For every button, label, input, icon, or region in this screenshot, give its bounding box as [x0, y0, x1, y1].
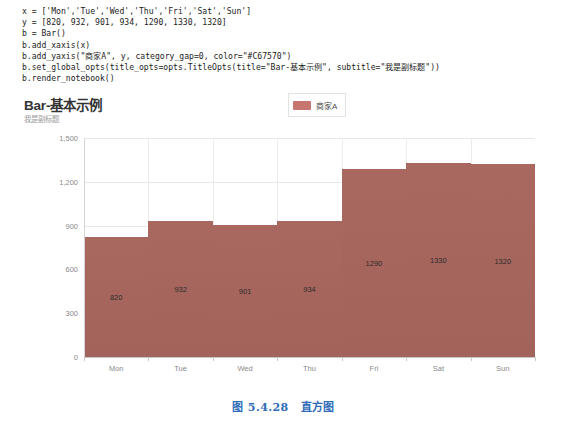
- bar-value-label: 1290: [342, 258, 406, 267]
- chart-title: Bar-基本示例: [24, 94, 101, 114]
- code-line-4-text: b.add_xaxis(x): [22, 40, 90, 50]
- bar-cell: 1320: [471, 138, 535, 357]
- code-line-6-text: b.set_global_opts(title_opts=opts.TitleO…: [22, 62, 440, 72]
- x-axis-tick-mark: [471, 357, 472, 361]
- bar[interactable]: 901: [213, 225, 277, 357]
- code-line-2: y = [820, 932, 901, 934, 1290, 1330, 132…: [22, 17, 567, 28]
- code-line-5: b.add_yaxis("商家A", y, category_gap=0, co…: [22, 51, 567, 62]
- bar-cell: 820: [84, 138, 148, 357]
- code-line-3: b = Bar(): [22, 28, 567, 39]
- y-axis-tick-label: 600: [10, 265, 78, 274]
- x-axis-tick-mark: [277, 357, 278, 361]
- code-line-3-text: b = Bar(): [22, 28, 66, 38]
- bar-cell: 934: [277, 138, 341, 357]
- bar-cell: 1330: [406, 138, 470, 357]
- x-axis-tick-mark: [535, 357, 536, 361]
- y-axis-tick-label: 1,200: [10, 177, 78, 186]
- y-axis-tick-label: 300: [10, 309, 78, 318]
- bar-value-label: 901: [213, 287, 277, 296]
- figure-caption-text: 直方图: [301, 401, 335, 414]
- chart-card: Bar-基本示例 我是副标题 商家A 03006009001,2001,500 …: [10, 88, 550, 388]
- x-axis-tick-label: Mon: [109, 364, 124, 373]
- figure-caption-number: 图 5.4.28: [232, 401, 288, 414]
- x-axis-tick-label: Sun: [496, 364, 509, 373]
- bar[interactable]: 1320: [471, 164, 535, 357]
- code-line-7-text: b.render_notebook(): [22, 73, 115, 83]
- y-axis-tick-label: 900: [10, 221, 78, 230]
- y-axis-line: [84, 138, 85, 357]
- code-line-6: b.set_global_opts(title_opts=opts.TitleO…: [22, 62, 567, 73]
- code-block: x = ['Mon','Tue','Wed','Thu','Fri','Sat'…: [0, 0, 567, 88]
- y-axis-tick-label: 0: [10, 353, 78, 362]
- x-axis-line: [84, 357, 536, 358]
- bar-value-label: 934: [277, 284, 341, 293]
- legend-item-label: 商家A: [316, 100, 337, 111]
- bar[interactable]: 1290: [342, 169, 406, 357]
- x-axis-tick-mark: [342, 357, 343, 361]
- x-axis-tick-mark: [84, 357, 85, 361]
- bar[interactable]: 1330: [406, 163, 470, 357]
- bar[interactable]: 934: [277, 221, 341, 357]
- chart-subtitle: 我是副标题: [24, 113, 59, 124]
- bar-value-label: 1330: [406, 255, 470, 264]
- bar-cell: 932: [148, 138, 212, 357]
- bar-cell: 901: [213, 138, 277, 357]
- x-axis-tick-label: Tue: [174, 364, 187, 373]
- x-axis-tick-mark: [213, 357, 214, 361]
- code-line-7: b.render_notebook(): [22, 73, 567, 84]
- x-axis-tick-label: Thu: [303, 364, 316, 373]
- bar[interactable]: 820: [84, 237, 148, 357]
- x-axis-tick-label: Sat: [433, 364, 444, 373]
- plot-area: 820932901934129013301320: [84, 138, 535, 357]
- x-axis-tick-label: Wed: [237, 364, 252, 373]
- chart-legend[interactable]: 商家A: [288, 93, 346, 117]
- y-axis-tick-label: 1,500: [10, 134, 78, 143]
- bar[interactable]: 932: [148, 221, 212, 357]
- legend-color-swatch: [293, 101, 311, 110]
- code-line-4: b.add_xaxis(x): [22, 40, 567, 51]
- bar-cell: 1290: [342, 138, 406, 357]
- bar-series: 820932901934129013301320: [84, 138, 535, 357]
- figure-caption: 图 5.4.28直方图: [0, 398, 567, 414]
- x-axis-tick-mark: [406, 357, 407, 361]
- bar-value-label: 1320: [471, 256, 535, 265]
- code-line-1: x = ['Mon','Tue','Wed','Thu','Fri','Sat'…: [22, 6, 567, 17]
- x-axis-tick-label: Fri: [370, 364, 379, 373]
- bar-value-label: 820: [84, 293, 148, 302]
- bar-value-label: 932: [148, 284, 212, 293]
- code-line-2-text: y = [820, 932, 901, 934, 1290, 1330, 132…: [22, 17, 227, 27]
- x-axis-tick-mark: [148, 357, 149, 361]
- code-line-1-text: x = ['Mon','Tue','Wed','Thu','Fri','Sat'…: [22, 6, 251, 16]
- code-line-5-text: b.add_yaxis("商家A", y, category_gap=0, co…: [22, 51, 291, 61]
